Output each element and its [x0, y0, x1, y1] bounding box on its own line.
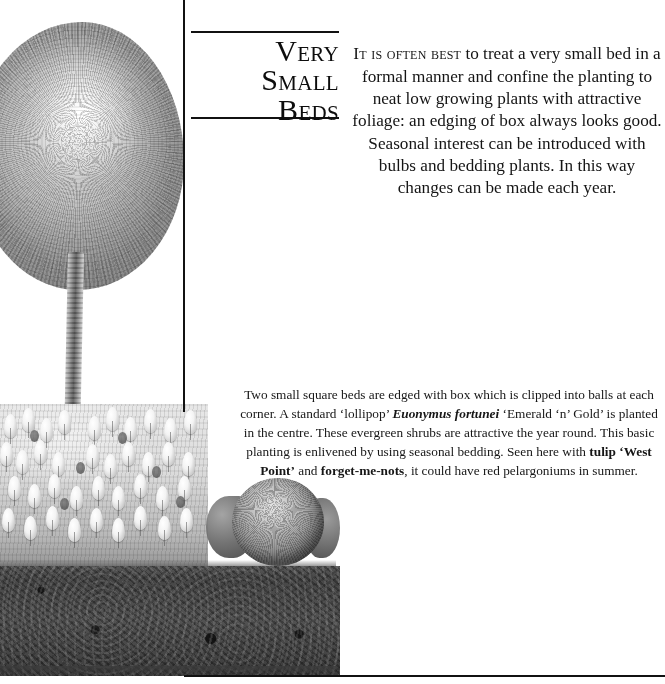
- tulip-flower: [162, 442, 175, 466]
- tulip-flower: [88, 416, 101, 440]
- tulip-flower: [158, 516, 171, 540]
- tulip-flower: [164, 418, 177, 442]
- tulip-flower: [48, 474, 61, 498]
- tulip-flower: [2, 508, 15, 532]
- tulip-flower: [92, 476, 105, 500]
- tulip-flower: [70, 486, 83, 510]
- title-rule-top: [191, 31, 339, 33]
- tulip-flower: [24, 516, 37, 540]
- page-title: Very Small Beds: [191, 36, 339, 124]
- tulip-flower: [90, 508, 103, 532]
- title-block: Very Small Beds: [191, 36, 339, 124]
- tulip-flower: [58, 410, 71, 434]
- tulip-flower: [134, 506, 147, 530]
- caption-bold-forget-me-nots: forget-me-nots: [321, 463, 404, 478]
- tulip-flower: [68, 518, 81, 542]
- forget-me-not-clump: [118, 432, 127, 444]
- caption-part-5: , it could have red pelargoniums in summ…: [404, 463, 638, 478]
- forget-me-not-clump: [60, 498, 69, 510]
- canopy-edge-foliage: [0, 22, 184, 290]
- tulip-flower: [4, 414, 17, 438]
- tulip-flower: [184, 410, 197, 434]
- tulip-flower: [40, 418, 53, 442]
- forget-me-not-clump: [76, 462, 85, 474]
- intro-body: to treat a very small bed in a formal ma…: [352, 44, 661, 197]
- tulip-flower: [182, 452, 195, 476]
- tulip-flower: [16, 450, 29, 474]
- clipped-box-ball: [232, 478, 324, 566]
- caption-bold-tulip: tulip: [589, 444, 616, 459]
- tulip-flower: [112, 518, 125, 542]
- tulip-flower: [0, 442, 13, 466]
- caption-species-name: Euonymus fortunei: [392, 406, 499, 421]
- tulip-flower: [28, 484, 41, 508]
- tulip-flower: [22, 408, 35, 432]
- tulip-flower: [86, 444, 99, 468]
- soil-band: [0, 566, 340, 676]
- tulip-flower: [122, 442, 135, 466]
- intro-paragraph: It is often best to treat a very small b…: [352, 43, 662, 200]
- tulip-flower: [46, 506, 59, 530]
- book-page: Very Small Beds It is often best to trea…: [0, 0, 665, 684]
- tulip-flower: [134, 474, 147, 498]
- tulip-flower: [8, 476, 21, 500]
- tulip-flower-bed: [0, 404, 208, 574]
- left-vertical-rule: [183, 0, 185, 412]
- tulip-flower: [52, 452, 65, 476]
- forget-me-not-clump: [152, 466, 161, 478]
- caption-part-4: and: [295, 463, 321, 478]
- bottom-horizontal-rule: [184, 675, 665, 677]
- tulip-flower: [156, 486, 169, 510]
- tulip-flower: [112, 486, 125, 510]
- tulip-flower: [180, 508, 193, 532]
- tulip-flower: [106, 407, 119, 431]
- tulip-flower: [144, 409, 157, 433]
- illustration-caption: Two small square beds are edged with box…: [237, 385, 661, 480]
- forget-me-not-clump: [30, 430, 39, 442]
- intro-lead-smallcaps: It is often best: [353, 44, 461, 63]
- forget-me-not-clump: [176, 496, 185, 508]
- tulip-flower: [34, 440, 47, 464]
- tulip-flower: [104, 454, 117, 478]
